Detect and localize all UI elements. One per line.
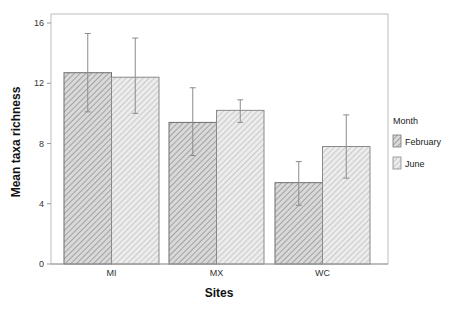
y-tick-label: 16 — [34, 18, 44, 28]
bars — [51, 73, 388, 264]
legend-title: Month — [393, 116, 418, 126]
x-tick-label: MX — [210, 268, 224, 278]
y-tick-label: 12 — [34, 78, 44, 88]
y-tick-label: 4 — [39, 199, 44, 209]
legend: Month February June — [393, 116, 442, 169]
x-tick-label: MI — [107, 268, 117, 278]
legend-label-february: February — [405, 137, 442, 147]
y-tick-label: 8 — [39, 139, 44, 149]
bar-mx-june — [217, 110, 265, 264]
y-axis-ticks: 0481216 — [34, 18, 51, 269]
legend-swatch-february — [393, 135, 401, 147]
x-axis-ticks: MIMXWC — [107, 268, 331, 278]
y-tick-label: 0 — [39, 259, 44, 269]
legend-swatch-june — [393, 157, 401, 169]
y-axis-title: Mean taxa richness — [9, 86, 23, 197]
bar-chart: 0481216 MIMXWC Sites Mean taxa richness … — [0, 0, 452, 314]
x-tick-label: WC — [315, 268, 330, 278]
legend-label-june: June — [405, 159, 425, 169]
x-axis-title: Sites — [205, 286, 234, 300]
